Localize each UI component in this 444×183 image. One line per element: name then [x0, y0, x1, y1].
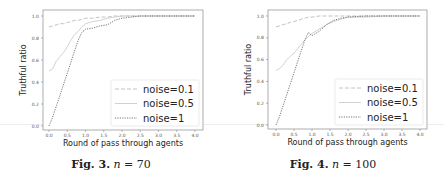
x-tick-label: 2.0 — [344, 132, 351, 137]
x-tick-label: 1.0 — [82, 133, 89, 138]
x-tick-label: 2.5 — [137, 133, 144, 138]
x-tick-label: 1.5 — [100, 133, 107, 138]
x-tick-label: 0.5 — [290, 132, 297, 137]
x-axis-label: Round of pass through agents — [287, 138, 407, 147]
x-tick-label: 0.0 — [272, 132, 279, 137]
y-axis-label: Truthful ratio — [19, 44, 28, 96]
x-tick-label: 1.5 — [326, 132, 333, 137]
caption-value: = 100 — [339, 158, 376, 171]
chart-fig3: 0.00.20.40.60.81.00.00.51.01.52.02.53.03… — [0, 0, 222, 160]
legend-label: noise=1 — [367, 112, 408, 123]
chart-fig4: 0.00.20.40.60.81.00.00.51.01.52.02.53.03… — [222, 0, 444, 160]
legend-label: noise=1 — [143, 113, 184, 124]
figure-4-caption: Fig. 4. n = 100 — [222, 158, 444, 171]
figure-4: 0.00.20.40.60.81.00.00.51.01.52.02.53.03… — [222, 0, 444, 183]
caption-variable: n — [114, 158, 121, 171]
y-tick-label: 0.8 — [257, 35, 264, 40]
legend-label: noise=0.1 — [143, 84, 194, 95]
x-tick-label: 4.0 — [191, 133, 198, 138]
legend-label: noise=0.5 — [367, 97, 418, 108]
y-tick-label: 0.0 — [32, 124, 39, 129]
figure-3-caption: Fig. 3. n = 70 — [0, 158, 222, 171]
figure-3: 0.00.20.40.60.81.00.00.51.01.52.02.53.03… — [0, 0, 222, 183]
caption-value: = 70 — [121, 158, 151, 171]
x-tick-label: 1.0 — [308, 132, 315, 137]
caption-label: Fig. 4. — [290, 158, 329, 171]
caption-label: Fig. 3. — [71, 158, 110, 171]
y-tick-label: 0.4 — [32, 80, 39, 85]
y-axis-label: Truthful ratio — [244, 44, 253, 96]
y-tick-label: 1.0 — [257, 14, 264, 19]
y-tick-label: 1.0 — [32, 14, 39, 19]
y-tick-label: 0.2 — [257, 101, 264, 106]
x-axis-label: Round of pass through agents — [63, 139, 183, 148]
y-tick-label: 0.6 — [257, 57, 264, 62]
y-tick-label: 0.2 — [32, 102, 39, 107]
legend-label: noise=0.5 — [143, 98, 194, 109]
x-tick-label: 3.5 — [398, 132, 405, 137]
x-tick-label: 3.0 — [155, 133, 162, 138]
x-tick-label: 2.5 — [362, 132, 369, 137]
x-tick-label: 0.0 — [45, 133, 52, 138]
y-tick-label: 0.6 — [32, 58, 39, 63]
y-tick-label: 0.8 — [32, 36, 39, 41]
legend-label: noise=0.1 — [367, 83, 418, 94]
y-tick-label: 0.4 — [257, 79, 264, 84]
x-tick-label: 0.5 — [64, 133, 71, 138]
x-tick-label: 4.0 — [416, 132, 423, 137]
y-tick-label: 0.0 — [257, 123, 264, 128]
x-tick-label: 3.0 — [380, 132, 387, 137]
x-tick-label: 2.0 — [118, 133, 125, 138]
x-tick-label: 3.5 — [173, 133, 180, 138]
